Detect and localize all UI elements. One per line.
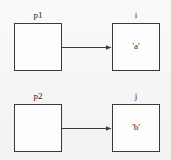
node-label-p1: p1 (14, 10, 62, 21)
node-label-i: i (112, 10, 160, 21)
node-value-j: 'b' (112, 122, 160, 133)
node-label-p2: p2 (14, 91, 62, 102)
node-label-j: j (112, 91, 160, 102)
diagram-canvas: p1 i 'a' p2 j 'b' (0, 0, 171, 160)
node-value-i: 'a' (112, 41, 160, 52)
node-box-p1 (14, 23, 62, 71)
node-box-p2 (14, 104, 62, 152)
